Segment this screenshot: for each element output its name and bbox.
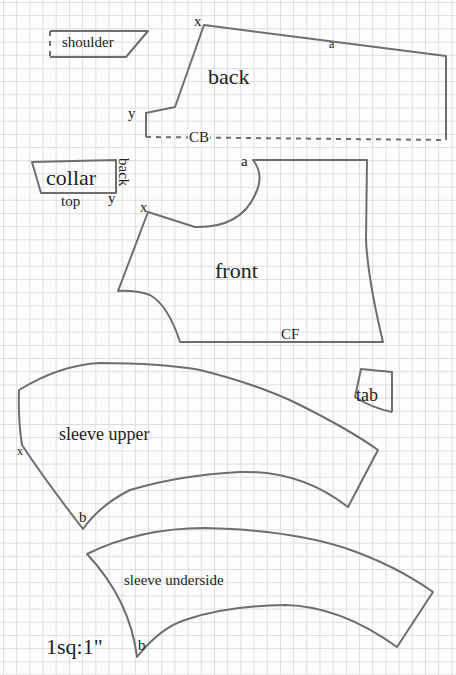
front-mark-x: x	[140, 200, 148, 215]
back-mark-a: a	[329, 38, 334, 50]
collar-label: collar	[46, 167, 96, 189]
back-piece	[146, 25, 446, 140]
front-mark-cf: CF	[281, 327, 299, 342]
pattern-outlines	[0, 0, 456, 675]
shoulder-label: shoulder	[62, 35, 114, 50]
back-label: back	[208, 66, 250, 88]
collar-side-back: back	[116, 158, 131, 186]
front-mark-a: a	[241, 154, 248, 169]
back-mark-x: x	[194, 14, 202, 29]
front-label: front	[215, 260, 258, 282]
pattern-sheet: shoulder x a back y CB collar back top y…	[0, 0, 456, 675]
collar-mark-y: y	[108, 191, 116, 206]
tab-label: tab	[356, 386, 378, 404]
sleeve-underside-mark-b: b	[138, 638, 146, 653]
sleeve-upper-mark-x: x	[17, 445, 23, 457]
scale-note: 1sq:1"	[46, 636, 103, 658]
sleeve-upper-label: sleeve upper	[59, 425, 149, 443]
sleeve-upper-mark-b: b	[79, 510, 87, 525]
front-piece	[118, 160, 383, 342]
sleeve-upper-piece	[19, 363, 378, 529]
collar-side-top: top	[61, 194, 80, 209]
back-mark-y: y	[128, 106, 136, 121]
back-mark-cb: CB	[188, 130, 210, 145]
sleeve-underside-label: sleeve underside	[124, 573, 224, 588]
